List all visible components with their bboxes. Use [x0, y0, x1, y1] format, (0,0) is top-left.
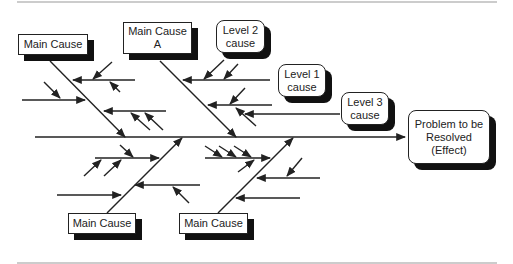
main-cause-label: Main Cause [184, 217, 243, 230]
callout-sublabel: cause [350, 109, 379, 122]
callout-label: Level 3 [347, 96, 382, 109]
effect-label-line1: Problem to be [415, 118, 483, 131]
callout-level-1: Level 1 cause [278, 64, 326, 97]
main-cause-a: Main Cause A [123, 22, 192, 54]
callout-sublabel: cause [287, 81, 316, 94]
main-cause-label: Main Cause [73, 217, 132, 230]
main-cause-bottom-right: Main Cause [179, 213, 248, 234]
main-cause-label: Main Cause [24, 38, 83, 51]
main-cause-top-left: Main Cause [18, 34, 88, 55]
callout-label: Level 1 [284, 68, 319, 81]
callout-sublabel: cause [226, 37, 255, 50]
main-cause-label: Main Cause [128, 25, 187, 38]
callout-label: Level 2 [223, 24, 258, 37]
main-cause-sublabel: A [154, 38, 161, 51]
callout-level-2: Level 2 cause [216, 20, 265, 53]
effect-box: Problem to be Resolved (Effect) [408, 110, 490, 164]
effect-label-line3: (Effect) [431, 144, 466, 157]
main-cause-bottom-left: Main Cause [68, 213, 136, 234]
callout-level-3: Level 3 cause [341, 92, 389, 125]
effect-label-line2: Resolved [426, 131, 472, 144]
